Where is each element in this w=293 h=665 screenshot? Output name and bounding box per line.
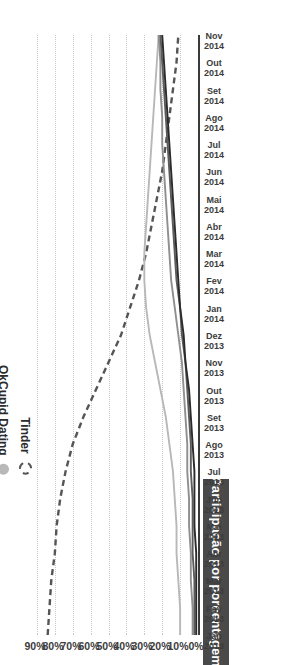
legend-label: OkCupid Dating <box>0 365 10 456</box>
legend-item-okcupid-dating[interactable]: OkCupid Dating <box>0 365 14 475</box>
legend-marker-icon <box>0 464 9 475</box>
x-tick-Jun-2014: Jun2014 <box>204 167 224 187</box>
x-tick-Fev-2014: Fev2014 <box>204 276 224 296</box>
chart-screenshot: Participação por porcentagem 0%10%20%30%… <box>0 0 293 665</box>
x-tick-Ago-2014: Ago2014 <box>204 113 224 133</box>
x-tick-Jun-2013: Jun2013 <box>204 495 224 515</box>
x-tick-Abr-2014: Abr2014 <box>204 222 224 242</box>
gridline-0% <box>198 35 200 635</box>
x-tick-Jul-2014: Jul2014 <box>204 140 224 160</box>
x-tick-Abr-2013: Abr2013 <box>204 549 224 569</box>
x-tick-Jan-2013: Jan2013 <box>204 631 224 651</box>
y-tick-90%: 90% <box>18 640 52 652</box>
legend-item-tinder[interactable]: Tinder <box>14 365 36 475</box>
x-tick-Out-2013: Out2013 <box>204 386 224 406</box>
x-tick-Set-2014: Set2014 <box>204 86 224 106</box>
legend-marker-icon <box>19 462 32 475</box>
x-tick-Nov-2014: Nov2014 <box>204 31 224 51</box>
x-tick-Mai-2014: Mai2014 <box>204 195 224 215</box>
x-tick-Nov-2013: Nov2013 <box>204 358 224 378</box>
x-tick-Jul-2013: Jul2013 <box>204 467 224 487</box>
x-tick-Set-2013: Set2013 <box>204 413 224 433</box>
line-chart-figure: Participação por porcentagem 0%10%20%30%… <box>0 0 293 665</box>
legend-label: Tinder <box>18 417 32 453</box>
series-line-tinder <box>48 35 179 635</box>
chart-legend: TinderOkCupid DatingZooskMatch.comHinge <box>0 365 36 475</box>
x-tick-Jan-2014: Jan2014 <box>204 304 224 324</box>
series-lines <box>28 35 198 635</box>
x-tick-Out-2014: Out2014 <box>204 58 224 78</box>
plot-area <box>28 35 198 635</box>
x-tick-Dez-2013: Dez2013 <box>204 331 224 351</box>
x-tick-Mar-2014: Mar2014 <box>204 249 224 269</box>
x-tick-Ago-2013: Ago2013 <box>204 440 224 460</box>
x-tick-Mar-2013: Mar2013 <box>204 576 224 596</box>
x-tick-Mai-2013: Mai2013 <box>204 522 224 542</box>
x-tick-Fev-2013: Fev2013 <box>204 604 224 624</box>
